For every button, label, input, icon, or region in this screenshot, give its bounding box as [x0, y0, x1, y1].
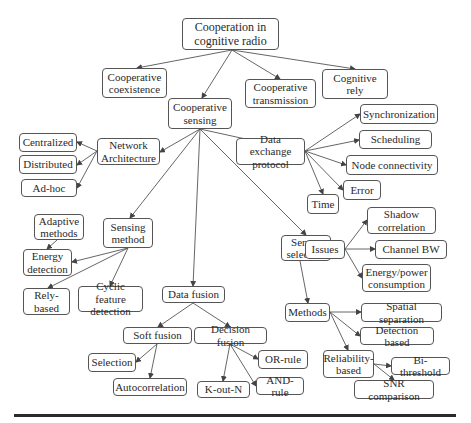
node-energypower: Energy/power consumption — [362, 264, 431, 292]
edge-arrow — [160, 129, 200, 152]
node-decision: Decision fusion — [194, 327, 267, 344]
edge-arrow — [232, 50, 280, 79]
edge-arrow — [77, 151, 97, 188]
node-channelbw: Channel BW — [375, 240, 447, 259]
node-netarch: Network Architecture — [97, 138, 160, 165]
node-andrule: AND-rule — [256, 377, 304, 395]
edge-arrow — [77, 142, 97, 151]
node-error: Error — [343, 180, 381, 200]
edge-arrow — [305, 151, 343, 190]
edge-arrow — [202, 50, 232, 98]
node-spatial: Spatial separation — [361, 303, 442, 322]
node-energy: Energy detection — [23, 249, 72, 276]
edge-arrow — [345, 249, 362, 278]
edge-arrow — [158, 303, 193, 327]
node-coexistence: Cooperative coexistence — [102, 68, 167, 98]
node-adhoc: Ad-hoc — [21, 179, 77, 197]
node-sync: Synchronization — [360, 104, 438, 124]
node-sensmethod: Sensing method — [103, 218, 153, 248]
bottom-rule-divider — [14, 414, 456, 417]
node-time: Time — [307, 194, 339, 214]
node-root: Cooperation in cognitive radio — [182, 18, 279, 50]
node-autocorr: Autocorrelation — [113, 378, 187, 396]
node-sensing: Cooperative sensing — [168, 98, 232, 129]
node-snr: SNR comparison — [354, 380, 434, 399]
edge-arrow — [232, 50, 355, 69]
edge-arrow — [330, 312, 360, 336]
node-adaptive: Adaptive methods — [34, 214, 84, 240]
node-selection: Selection — [88, 353, 136, 372]
node-relybased: Rely- based — [23, 288, 70, 315]
node-shadow: Shadow correlation — [367, 207, 436, 234]
node-sched: Scheduling — [359, 130, 432, 149]
edge-arrow — [77, 151, 97, 165]
edge-arrow — [193, 129, 200, 286]
edge-arrow — [137, 50, 232, 68]
node-soft: Soft fusion — [123, 327, 192, 344]
node-datafusion: Data fusion — [162, 286, 225, 303]
node-reliability: Reliability- based — [323, 350, 374, 378]
edge-arrow — [330, 312, 348, 350]
edge-arrow — [345, 220, 367, 249]
edge-arrow — [72, 248, 128, 262]
edge-arrow — [47, 240, 57, 249]
node-koutn: K-out-N — [197, 381, 250, 398]
node-bithresh: Bi-threshold — [391, 357, 450, 375]
node-cyclic: Cyclic feature detection — [78, 286, 143, 312]
node-orrule: OR-rule — [258, 350, 308, 369]
node-rely: Cognitive rely — [322, 69, 388, 99]
edge-arrow — [300, 261, 308, 303]
node-issues: Issues — [305, 240, 345, 259]
edge-arrow — [223, 344, 230, 381]
edge-arrow — [305, 151, 346, 165]
node-centralized: Centralized — [19, 133, 77, 152]
node-nodeconn: Node connectivity — [346, 155, 438, 175]
cognitive-radio-cooperation-diagram: Cooperation in cognitive radioCooperativ… — [0, 0, 471, 423]
edge-arrow — [230, 344, 256, 386]
edge-arrow — [305, 151, 323, 194]
node-distributed: Distributed — [19, 155, 77, 174]
node-dataex: Data exchange protocol — [236, 138, 305, 165]
node-transmission: Cooperative transmission — [245, 79, 316, 108]
node-detbased: Detection based — [360, 327, 434, 345]
node-methods: Methods — [285, 303, 330, 322]
